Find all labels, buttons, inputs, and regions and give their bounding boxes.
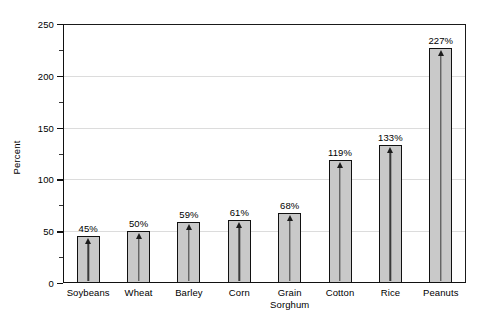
bar-value-label: 68%	[280, 200, 299, 211]
up-arrow-icon-shaft	[440, 55, 441, 281]
y-axis-tick-label: 50	[43, 226, 54, 237]
bar-value-label: 227%	[428, 35, 453, 46]
y-axis: Percent 050100150200250	[0, 0, 63, 323]
x-axis-category-label: Grain Sorghum	[270, 287, 309, 310]
bar-rect[interactable]	[329, 160, 352, 283]
y-axis-tick-label: 0	[49, 278, 54, 289]
bar-value-label: 61%	[230, 207, 249, 218]
up-arrow-icon-shaft	[390, 152, 391, 281]
x-axis-category-label: Soybeans	[67, 287, 110, 299]
bar-rect[interactable]	[127, 231, 150, 283]
y-axis-title: Percent	[11, 126, 22, 190]
y-tick-major	[57, 283, 63, 284]
bar-chart: Percent 050100150200250 45%50%59%61%68%1…	[0, 0, 487, 323]
y-axis-tick-label: 200	[38, 70, 54, 81]
up-arrow-icon-shaft	[289, 220, 290, 281]
y-axis-tick-label: 150	[38, 122, 54, 133]
bar-group[interactable]: 45%	[77, 223, 100, 283]
up-arrow-icon	[85, 238, 91, 244]
bar-group[interactable]: 68%	[278, 200, 301, 283]
x-axis-labels: SoybeansWheatBarleyCornGrain SorghumCott…	[63, 287, 466, 323]
bar-rect[interactable]	[429, 48, 452, 283]
bar-rect[interactable]	[379, 145, 402, 283]
up-arrow-icon	[136, 233, 142, 239]
bar-group[interactable]: 50%	[127, 218, 150, 283]
bar-group[interactable]: 59%	[177, 209, 200, 283]
x-axis-category-label: Rice	[381, 287, 400, 299]
bar-value-label: 133%	[378, 132, 403, 143]
up-arrow-icon	[186, 224, 192, 230]
up-arrow-icon	[337, 162, 343, 168]
bar-group[interactable]: 227%	[429, 35, 452, 283]
bar-rect[interactable]	[228, 220, 251, 283]
bar-group[interactable]: 61%	[228, 207, 251, 283]
bar-value-label: 50%	[129, 218, 148, 229]
y-axis-tick-label: 100	[38, 174, 54, 185]
up-arrow-icon	[236, 222, 242, 228]
x-axis-category-label: Cotton	[326, 287, 355, 299]
up-arrow-icon-shaft	[188, 229, 189, 281]
bar-value-label: 45%	[79, 223, 98, 234]
bar-group[interactable]: 119%	[329, 147, 352, 283]
up-arrow-icon	[387, 147, 393, 153]
bar-group[interactable]: 133%	[379, 132, 402, 283]
bar-value-label: 59%	[179, 209, 198, 220]
up-arrow-icon-shaft	[87, 243, 88, 281]
up-arrow-icon-shaft	[239, 227, 240, 281]
x-axis-category-label: Barley	[175, 287, 203, 299]
up-arrow-icon-shaft	[339, 167, 340, 281]
bars-layer: 45%50%59%61%68%119%133%227%	[63, 24, 466, 283]
x-axis-category-label: Peanuts	[423, 287, 459, 299]
x-axis-category-label: Corn	[229, 287, 250, 299]
bar-rect[interactable]	[278, 213, 301, 283]
bar-rect[interactable]	[177, 222, 200, 283]
up-arrow-icon	[438, 50, 444, 56]
y-axis-tick-label: 250	[38, 19, 54, 30]
up-arrow-icon-shaft	[138, 238, 139, 281]
x-axis-category-label: Wheat	[125, 287, 153, 299]
bar-value-label: 119%	[328, 147, 352, 158]
up-arrow-icon	[287, 215, 293, 221]
bar-rect[interactable]	[77, 236, 100, 283]
